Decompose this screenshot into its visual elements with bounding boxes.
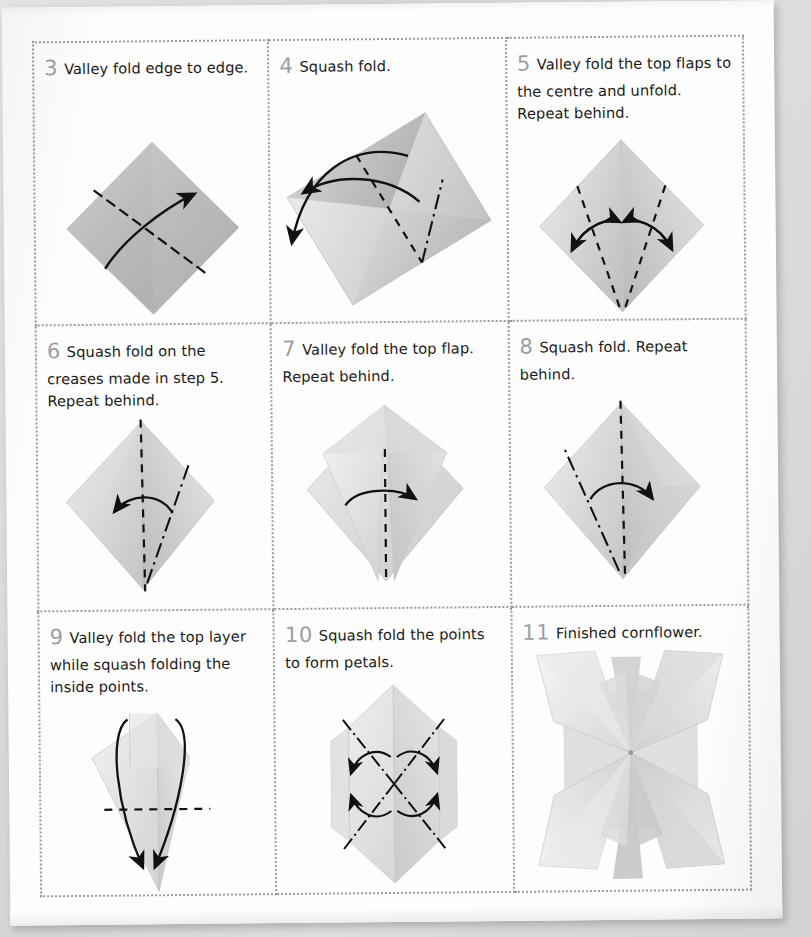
step-caption-9: 9Valley fold the top layer while squash …: [50, 620, 266, 698]
step-number-4: 4: [279, 54, 293, 78]
step-number-11: 11: [522, 620, 550, 644]
step-number-10: 10: [285, 622, 313, 646]
instruction-grid: 3Valley fold edge to edge.: [32, 35, 752, 898]
step-cell-10: 10Squash fold the points to form petals.: [275, 608, 515, 896]
step-number-6: 6: [47, 340, 61, 364]
step-caption-6: 6Squash fold on the creases made in step…: [47, 335, 263, 413]
step-caption-4: 4Squash fold.: [279, 49, 497, 83]
step-number-9: 9: [50, 625, 64, 649]
step-cell-9: 9Valley fold the top layer while squash …: [37, 610, 277, 898]
step-caption-7: 7Valley fold the top flap. Repeat behind…: [282, 332, 500, 388]
step-number-3: 3: [44, 56, 58, 80]
step-cell-3: 3Valley fold edge to edge.: [32, 39, 272, 327]
step-text-6: Squash fold on the creases made in step …: [47, 342, 224, 410]
step-number-5: 5: [517, 52, 531, 76]
step-diagram-6: [38, 416, 273, 608]
step-text-11: Finished cornflower.: [556, 623, 703, 641]
step-diagram-3: [35, 127, 270, 327]
step-text-5: Valley fold the top flaps to the centre …: [517, 54, 731, 122]
step-cell-6: 6Squash fold on the creases made in step…: [35, 324, 275, 612]
step-cell-4: 4Squash fold.: [269, 37, 509, 325]
step-diagram-5: [508, 133, 745, 323]
step-diagram-4: [270, 95, 508, 325]
step-text-4: Squash fold.: [299, 57, 391, 75]
step-caption-3: 3Valley fold edge to edge.: [44, 51, 260, 85]
step-number-7: 7: [282, 337, 296, 361]
step-text-9: Valley fold the top layer while squash f…: [50, 627, 246, 695]
step-caption-5: 5Valley fold the top flaps to the centre…: [517, 47, 735, 125]
step-text-7: Valley fold the top flap. Repeat behind.: [282, 340, 474, 386]
step-cell-7: 7Valley fold the top flap. Repeat behind…: [272, 322, 512, 610]
step-cell-11: 11Finished cornflower.: [512, 605, 752, 893]
step-diagram-8: [510, 398, 747, 600]
step-diagram-10: [275, 678, 512, 890]
step-text-10: Squash fold the points to form petals.: [285, 625, 484, 671]
step-caption-10: 10Squash fold the points to form petals.: [285, 618, 503, 674]
step-diagram-11: [512, 641, 750, 883]
step-text-3: Valley fold edge to edge.: [64, 58, 248, 77]
step-cell-8: 8Squash fold. Repeat behind.: [509, 320, 749, 608]
step-diagram-9: [40, 698, 275, 898]
step-text-8: Squash fold. Repeat behind.: [520, 337, 688, 383]
paper-sheet: 3Valley fold edge to edge.: [2, 0, 783, 925]
step-caption-8: 8Squash fold. Repeat behind.: [519, 330, 737, 386]
step-cell-5: 5Valley fold the top flaps to the centre…: [507, 35, 747, 323]
step-diagram-7: [273, 400, 510, 602]
step-number-8: 8: [519, 335, 533, 359]
